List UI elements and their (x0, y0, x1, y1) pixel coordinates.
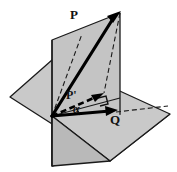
diagram-canvas (0, 0, 177, 172)
label-vector-q: Q (110, 113, 120, 126)
vector-projection-diagram: P P' Q α (0, 0, 177, 172)
origin-point (50, 114, 53, 117)
label-angle-alpha: α (73, 103, 80, 115)
label-vector-p: P (70, 8, 78, 21)
label-vector-p-prime: P' (66, 89, 77, 101)
